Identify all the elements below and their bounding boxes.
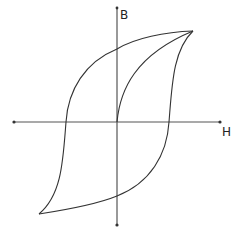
- initial-magnetization-curve: [117, 31, 193, 122]
- h-axis-label: H: [222, 125, 231, 139]
- b-axis-label: B: [120, 8, 128, 22]
- axes: [12, 7, 221, 227]
- hysteresis-diagram: B H: [0, 0, 242, 235]
- h-axis-right-endpoint: [218, 120, 221, 123]
- b-axis-bottom-endpoint: [115, 223, 118, 226]
- h-axis-left-endpoint: [12, 120, 15, 123]
- b-axis-top-endpoint: [116, 7, 119, 10]
